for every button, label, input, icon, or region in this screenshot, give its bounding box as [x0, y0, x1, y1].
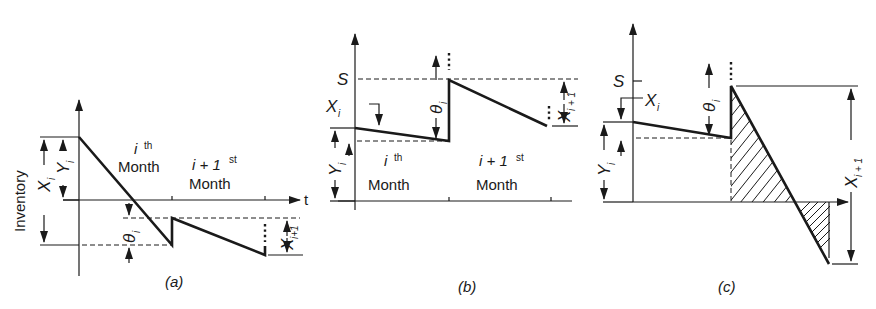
panel-c: S X i Y i θ i X i + 1 (c) [595, 16, 864, 295]
theta-label-sub: i [438, 101, 449, 104]
theta-label-main: θ [700, 102, 719, 112]
xi-leader [369, 104, 379, 108]
month2-label: Month [189, 175, 231, 192]
theta-label-sub: i [131, 230, 142, 233]
hatched-region-shortage [790, 172, 840, 278]
xnext-label: X i + 1 [842, 158, 864, 189]
xi-label-sub: i [46, 177, 57, 180]
theta-label-main: θ [120, 233, 139, 243]
month1-suffix: th [394, 152, 402, 163]
inventory-diagram: t Inventory X i Y i [0, 0, 876, 309]
theta-label-sub: i [711, 99, 722, 102]
xnext-label-sub: i + 1 [853, 158, 864, 177]
yi-label-sub: i [606, 162, 617, 165]
theta-label: θ i [700, 99, 722, 112]
month1-index: i [384, 152, 388, 169]
month1-label: Month [118, 158, 160, 175]
theta-label-main: θ [427, 104, 446, 114]
month1-label: Month [368, 176, 410, 193]
panel-b: S X i Y i θ i X i + 1 i th Month i + 1 s… [325, 34, 578, 295]
inventory-curve [355, 80, 547, 141]
theta-label: θ i [120, 230, 142, 243]
t-axis-label: t [304, 191, 309, 208]
yi-label: Y i [54, 160, 76, 174]
y-axis-label: Inventory [11, 170, 28, 232]
xi-leader [621, 98, 643, 104]
hatched-region-positive [720, 16, 800, 284]
caption-a: (a) [165, 273, 183, 290]
xi-label: X [325, 97, 338, 116]
xi-label: X i [35, 177, 57, 193]
month2-suffix: st [229, 154, 237, 165]
month2-index: i + 1 [192, 156, 221, 173]
xi-label-main: X [35, 180, 54, 193]
yi-label: Y i [326, 162, 348, 176]
theta-label: θ i [427, 101, 449, 114]
month1-index: i [134, 140, 138, 157]
xi-label: X [644, 91, 657, 110]
s-label: S [337, 70, 349, 89]
xnext-label-sub: i+1 [289, 225, 300, 239]
caption-c: (c) [718, 278, 736, 295]
caption-b: (b) [458, 278, 476, 295]
month2-label: Month [476, 176, 518, 193]
panel-a: t Inventory X i Y i [11, 100, 309, 290]
xnext-label: X i + 1 [555, 92, 577, 123]
month2-suffix: st [516, 152, 524, 163]
yi-label: Y i [595, 162, 617, 176]
month2-index: i + 1 [479, 152, 508, 169]
xi-label-sub: i [338, 108, 341, 119]
xi-label-sub: i [657, 102, 660, 113]
xnext-label: X i+1 [278, 225, 300, 251]
month1-suffix: th [144, 140, 152, 151]
yi-label-sub: i [65, 160, 76, 163]
xnext-label-sub: i + 1 [566, 92, 577, 111]
yi-label-sub: i [337, 162, 348, 165]
s-label: S [613, 72, 625, 91]
